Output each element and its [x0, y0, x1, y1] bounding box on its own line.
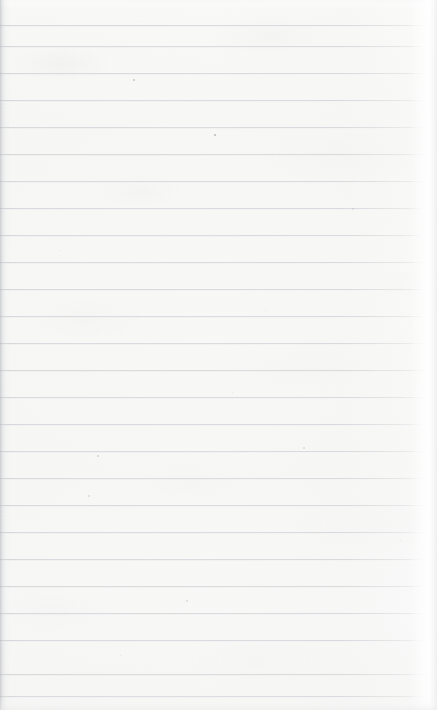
notebook-paper-page: [0, 0, 437, 710]
page-body-text[interactable]: [0, 0, 437, 710]
